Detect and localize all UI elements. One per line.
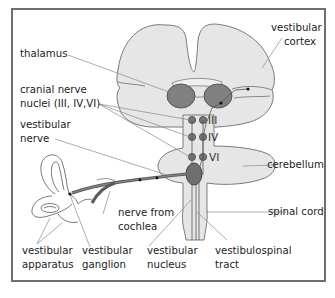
label-vestibular-nerve-line2: nerve [20, 133, 49, 144]
label-nerve-from-cochlea-line1: nerve from [118, 207, 174, 218]
vestibular-nerve [72, 174, 187, 193]
label-vestibular-ganglion-line2: ganglion [82, 259, 126, 270]
cerebrum [117, 24, 275, 127]
thalamus-left [167, 84, 195, 108]
vestibular-nucleus [186, 163, 202, 185]
numeral-vi: VI [209, 151, 219, 163]
numeral-iii: III [208, 114, 217, 126]
label-vestibular-nucleus-line1: vestibular [147, 245, 198, 256]
label-spinal-cord: spinal cord [268, 206, 324, 217]
label-vestibulospinal-tract-line1: vestibulospinal [215, 245, 292, 256]
label-vestibular-ganglion-line1: vestibular [82, 245, 133, 256]
label-vestibular-apparatus-line2: apparatus [22, 259, 74, 270]
label-thalamus: thalamus [20, 48, 67, 59]
label-vestibular-nucleus-line2: nucleus [147, 259, 186, 270]
label-vestibulospinal-tract-line2: tract [215, 259, 239, 270]
label-cranial-nerve-nuclei-line1: cranial nerve [20, 84, 87, 95]
numeral-iv: IV [208, 131, 219, 143]
label-vestibular-apparatus-line1: vestibular [22, 245, 73, 256]
label-cranial-nerve-nuclei-line2: nuclei (III, IV,VI) [20, 98, 100, 109]
label-nerve-from-cochlea-line2: cochlea [118, 221, 157, 232]
label-vestibular-cortex-line1: vestibular [271, 22, 322, 33]
vestibular-pathway-diagram: III IV VI thalamus cranial nerve nuclei … [0, 0, 335, 298]
label-vestibular-cortex-line2: cortex [284, 36, 316, 47]
label-vestibular-nerve-line1: vestibular [20, 119, 71, 130]
diagram-canvas: III IV VI thalamus cranial nerve nuclei … [0, 0, 335, 298]
label-cerebellum: cerebellum [267, 159, 324, 170]
